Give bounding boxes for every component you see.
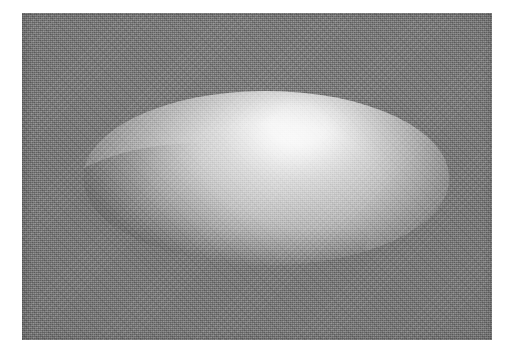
figure-root [0, 0, 515, 357]
shaded-ellipsoid [83, 91, 449, 265]
ellipsoid-specular-highlight [222, 94, 368, 181]
photograph-plate [22, 13, 492, 340]
ellipsoid-right-falloff [83, 91, 449, 265]
ellipsoid-limb-darkening [83, 91, 449, 265]
ellipsoid-terminator-shadow [83, 143, 368, 265]
